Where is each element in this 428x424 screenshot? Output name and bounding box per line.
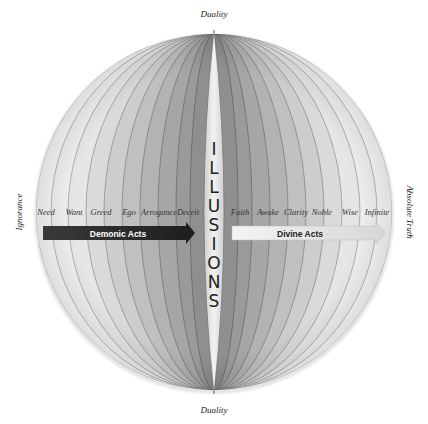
svg-text:U: U <box>208 196 220 216</box>
svg-text:L: L <box>209 158 219 178</box>
stage-awake: Awake <box>256 207 279 217</box>
svg-text:L: L <box>209 177 219 197</box>
divine-acts-label: Divine Acts <box>277 229 323 239</box>
stage-arrogance: Arrogance <box>140 207 177 217</box>
svg-text:N: N <box>208 272 221 292</box>
stage-deceit: Deceit <box>176 207 200 217</box>
illusions-label: I L L U S I O N S <box>207 139 220 311</box>
stage-wise: Wise <box>342 207 358 217</box>
duality-sphere-diagram: I L L U S I O N S Duality Duality Ignora… <box>0 0 428 424</box>
top-duality-label: Duality <box>200 9 228 19</box>
stage-want: Want <box>65 207 83 217</box>
bottom-duality-label: Duality <box>200 405 228 415</box>
absolute-truth-label: Absolute Truth <box>405 184 415 239</box>
stage-need: Need <box>36 207 55 217</box>
stage-ego: Ego <box>121 207 136 217</box>
ignorance-label: Ignorance <box>14 194 24 232</box>
stage-faith: Faith <box>230 207 249 217</box>
svg-text:S: S <box>209 215 220 235</box>
stage-clarity: Clarity <box>284 207 308 217</box>
stage-infinite: Infinite <box>364 207 390 217</box>
svg-text:S: S <box>209 291 220 311</box>
demonic-acts-label: Demonic Acts <box>90 229 147 239</box>
svg-text:I: I <box>211 234 216 254</box>
svg-text:O: O <box>207 253 220 273</box>
stage-noble: Noble <box>311 207 333 217</box>
svg-text:I: I <box>211 139 216 159</box>
stage-greed: Greed <box>91 207 113 217</box>
